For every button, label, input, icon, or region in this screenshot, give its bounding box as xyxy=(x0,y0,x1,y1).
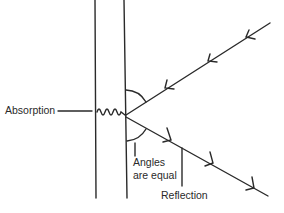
reflection-label: Reflection xyxy=(161,189,208,201)
incident-angle-arc xyxy=(126,90,146,102)
incident-arrowheads xyxy=(165,30,255,89)
reflected-angle-arc xyxy=(127,129,146,141)
surface-left-edge xyxy=(95,0,96,198)
angles-label-line2: are equal xyxy=(133,169,177,181)
absorption-wave-icon xyxy=(97,109,125,115)
absorption-label: Absorption xyxy=(5,104,55,116)
surface-right-edge xyxy=(124,0,127,198)
incident-ray xyxy=(126,23,270,115)
angles-label-line1: Angles xyxy=(133,156,165,168)
